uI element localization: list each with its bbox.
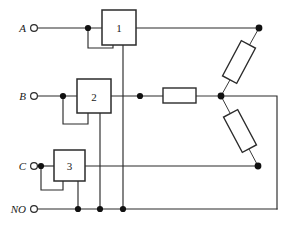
dot-star-center (218, 93, 225, 100)
terminal-label-c: C (19, 160, 27, 172)
dot-no-box3 (75, 206, 81, 212)
terminal-ring-b[interactable] (31, 93, 38, 100)
box-1-label: 1 (116, 22, 122, 34)
dot-top-right (256, 25, 263, 32)
dot-b-mid (137, 93, 143, 99)
terminals-group: ABCNO (10, 22, 38, 215)
terminal-ring-no[interactable] (31, 206, 38, 213)
dot-bottom-right (255, 163, 262, 170)
box-2-label: 2 (91, 91, 97, 103)
circuit-canvas: 123 ABCNO (0, 0, 291, 225)
terminal-label-a: A (18, 22, 26, 34)
resistor-lower-diagonal (224, 110, 257, 153)
terminal-ring-c[interactable] (31, 163, 38, 170)
dot-c-tap (38, 163, 44, 169)
terminal-label-no: NO (10, 203, 26, 215)
terminal-ring-a[interactable] (31, 25, 38, 32)
dot-no-box1 (120, 206, 126, 212)
box-3-label: 3 (67, 160, 73, 172)
dot-a-tap (85, 25, 91, 31)
circuit-diagram: 123 ABCNO (0, 0, 291, 225)
dot-b-tap (60, 93, 66, 99)
resistor-upper-diagonal (223, 41, 256, 84)
terminal-label-b: B (19, 90, 26, 102)
dot-no-box2 (97, 206, 103, 212)
resistor-horizontal (163, 88, 196, 103)
